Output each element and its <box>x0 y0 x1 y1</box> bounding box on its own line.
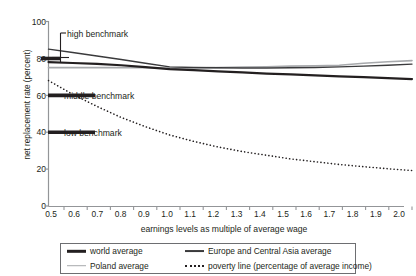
legend-label: Poland average <box>90 262 149 270</box>
legend-swatch-dotted-line-icon <box>185 261 204 270</box>
legend-label: Europe and Central Asia average <box>208 247 331 255</box>
legend: world average Europe and Central Asia av… <box>60 243 356 274</box>
legend-swatch-line-icon <box>185 247 204 256</box>
legend-swatch-line-icon <box>67 261 86 270</box>
plot-area <box>0 0 416 276</box>
chart-figure: net replacement rate (percent) 100 80 60… <box>0 0 416 276</box>
legend-item-world-average: world average <box>61 247 179 256</box>
series-line-world-average <box>49 62 413 79</box>
annotation-middle-benchmark: middle benchmark <box>64 91 134 101</box>
legend-label: world average <box>90 247 143 255</box>
legend-swatch-line-icon <box>67 247 86 256</box>
legend-item-europe-and-central-asia-average: Europe and Central Asia average <box>179 247 357 256</box>
annotation-low-benchmark: low benchmark <box>64 128 122 138</box>
legend-item-poverty-line: poverty line (percentage of average inco… <box>179 261 357 270</box>
legend-item-poland-average: Poland average <box>61 261 179 270</box>
series-group <box>49 49 413 170</box>
legend-label: poverty line (percentage of average inco… <box>208 262 372 270</box>
annotation-high-benchmark: high benchmark <box>67 29 128 39</box>
